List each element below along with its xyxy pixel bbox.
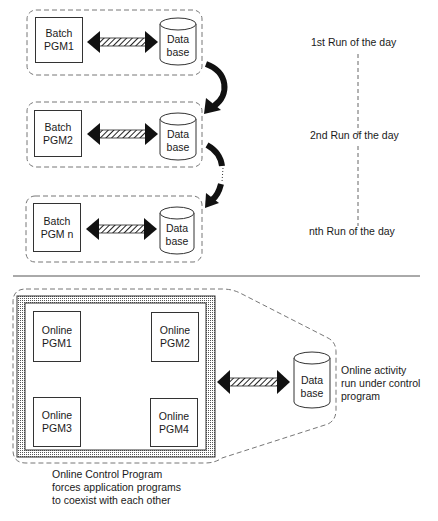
program-label-line2: PGM3 xyxy=(42,422,72,435)
batch-program-box-1: Batch PGM1 xyxy=(35,17,83,63)
online-program-box-2: Online PGM2 xyxy=(151,312,199,362)
program-label-line2: PGM2 xyxy=(160,337,190,350)
database-label: Data base xyxy=(294,374,330,400)
database-label-line1: Data xyxy=(160,128,196,141)
run-label-2nd: 2nd Run of the day xyxy=(310,129,399,142)
batch-program-box-n: Batch PGM n xyxy=(33,203,81,252)
program-label-line2: PGM2 xyxy=(43,134,73,147)
program-label-line1: Online xyxy=(160,324,190,337)
online-program-label: Online PGM2 xyxy=(160,324,190,350)
database-label: Data base xyxy=(160,33,196,59)
batch-program-box-2: Batch PGM2 xyxy=(34,110,82,157)
program-label-line1: Batch xyxy=(41,215,74,228)
run-label-1st: 1st Run of the day xyxy=(311,36,396,49)
program-label-line1: Batch xyxy=(43,121,73,134)
note-line: forces application programs xyxy=(52,481,181,494)
database-label-line1: Data xyxy=(159,222,195,235)
online-program-label: Online PGM4 xyxy=(159,410,189,436)
batch-program-label: Batch PGM n xyxy=(41,215,74,241)
control-program-note: Online Control Program forces applicatio… xyxy=(52,468,181,507)
program-label-line2: PGM1 xyxy=(44,40,74,53)
program-label-line2: PGM n xyxy=(41,228,74,241)
batch-program-label: Batch PGM2 xyxy=(43,121,73,147)
note-line: to coexist with each other xyxy=(52,494,181,507)
program-label-line2: PGM4 xyxy=(159,423,189,436)
program-label-line1: Online xyxy=(159,410,189,423)
program-label-line1: Online xyxy=(42,324,72,337)
program-label-line2: PGM1 xyxy=(42,337,72,350)
curved-next-run-dotted-arrow-icon xyxy=(205,145,223,208)
program-label-line1: Online xyxy=(42,409,72,422)
bidirectional-arrow-icon xyxy=(217,370,290,394)
database-label-line1: Data xyxy=(160,33,196,46)
program-label-line1: Batch xyxy=(44,27,74,40)
database-label-line2: base xyxy=(160,141,196,154)
online-program-box-1: Online PGM1 xyxy=(33,311,81,362)
bidirectional-arrow-icon xyxy=(86,218,157,240)
database-label: Data base xyxy=(160,128,196,154)
online-program-label: Online PGM3 xyxy=(42,409,72,435)
online-activity-note: Online activity run under control progra… xyxy=(341,364,420,403)
curved-next-run-arrow-icon xyxy=(204,64,224,114)
database-label-line1: Data xyxy=(294,374,330,387)
note-line: program xyxy=(341,390,420,403)
bidirectional-arrow-icon xyxy=(87,31,158,53)
database-label: Data base xyxy=(159,222,195,248)
online-program-box-3: Online PGM3 xyxy=(33,397,81,447)
database-label-line2: base xyxy=(294,387,330,400)
online-program-label: Online PGM1 xyxy=(42,324,72,350)
note-line: run under control xyxy=(341,377,420,390)
batch-program-label: Batch PGM1 xyxy=(44,27,74,53)
online-program-box-4: Online PGM4 xyxy=(150,398,198,447)
note-line: Online Control Program xyxy=(52,468,181,481)
database-label-line2: base xyxy=(160,46,196,59)
database-label-line2: base xyxy=(159,235,195,248)
run-label-nth: nth Run of the day xyxy=(309,225,395,238)
note-line: Online activity xyxy=(341,364,420,377)
bidirectional-arrow-icon xyxy=(87,123,158,145)
